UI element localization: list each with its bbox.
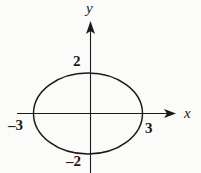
y-tick-label-negative: –2 bbox=[66, 154, 81, 169]
y-axis-label: y bbox=[86, 1, 93, 16]
x-tick-label-negative: –3 bbox=[8, 118, 23, 133]
y-tick-label-positive: 2 bbox=[73, 54, 81, 69]
x-tick-label-positive: 3 bbox=[145, 121, 153, 136]
y-axis bbox=[86, 21, 95, 173]
figure-canvas bbox=[0, 0, 201, 173]
x-axis bbox=[17, 109, 176, 118]
ellipse-figure: y x 2 –2 –3 3 bbox=[0, 0, 201, 173]
x-axis-label: x bbox=[184, 106, 191, 121]
